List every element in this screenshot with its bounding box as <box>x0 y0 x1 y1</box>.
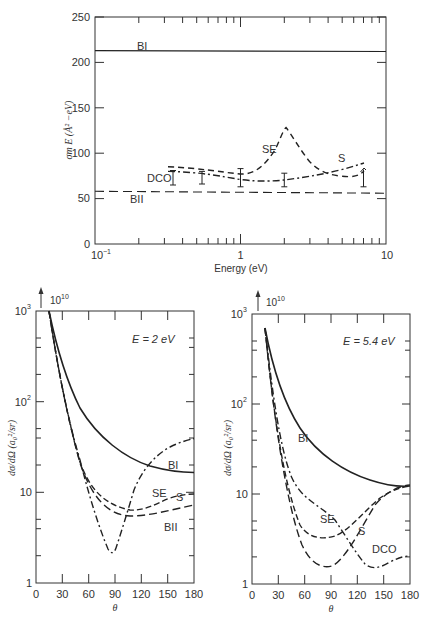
br-label-s: S <box>358 525 365 537</box>
br-x-tick-60: 60 <box>299 589 311 601</box>
br-x-tick-180: 180 <box>401 589 419 601</box>
br-y-tick-1000: 10 3 <box>231 306 247 320</box>
bl-curve-se <box>49 311 194 553</box>
bl-label-s: S <box>176 491 183 503</box>
svg-text:3: 3 <box>27 303 31 310</box>
figure: 250 200 150 100 50 0 10 −1 1 10 Energy (… <box>0 0 430 620</box>
bl-label-se: SE <box>152 487 167 499</box>
br-arrowhead-icon <box>256 290 261 297</box>
bl-x-tick-120: 120 <box>132 588 150 600</box>
br-y-tick-100: 10 2 <box>231 396 247 410</box>
br-label-bi: BI <box>298 432 308 444</box>
bl-x-tick-90: 90 <box>109 588 121 600</box>
top-x-tick-1: 1 <box>237 249 243 261</box>
br-y-tick-1: 1 <box>242 578 248 590</box>
br-scale-note-sup: 10 <box>277 295 285 302</box>
svg-text:10: 10 <box>231 398 243 410</box>
svg-text:3: 3 <box>243 306 247 313</box>
bl-scale-note-sup: 10 <box>61 293 69 300</box>
svg-text:10: 10 <box>231 308 243 320</box>
svg-text:2: 2 <box>27 394 31 401</box>
bl-x-tick-30: 30 <box>56 588 68 600</box>
top-label-s: S <box>338 152 345 164</box>
top-y-tick-200: 200 <box>72 56 90 68</box>
top-x-axis-label: Energy (eV) <box>214 263 267 274</box>
svg-text:−1: −1 <box>103 248 111 255</box>
bl-y-tick-10: 10 <box>20 486 32 498</box>
top-label-dco: DCO <box>147 172 172 184</box>
bl-y-tick-100: 10 2 <box>15 394 31 408</box>
br-x-axis-label: θ <box>329 603 334 614</box>
bottom-right-chart: 10 10 1 10 10 2 10 <box>222 290 419 614</box>
br-x-ticks <box>278 314 383 584</box>
bl-x-axis-label: θ <box>113 602 118 613</box>
br-curve-dco <box>265 328 410 567</box>
br-label-se: SE <box>320 513 335 525</box>
svg-text:2: 2 <box>243 396 247 403</box>
bl-scale-note: 10 <box>50 295 62 306</box>
br-x-tick-120: 120 <box>348 589 366 601</box>
br-y-axis-label: dσ/dΩ (a₀²/sr) <box>222 419 234 476</box>
svg-text:10: 10 <box>91 249 103 261</box>
top-y-axis-label: σm E (Å² −eV) <box>63 100 75 159</box>
br-x-tick-150: 150 <box>375 589 393 601</box>
top-x-tick-01: 10 −1 <box>91 248 111 261</box>
bl-label-bii: BII <box>164 521 177 533</box>
bl-x-tick-0: 0 <box>33 588 39 600</box>
bl-energy-label: E = 2 eV <box>132 333 176 345</box>
bl-x-tick-180: 180 <box>185 588 203 600</box>
top-y-tick-50: 50 <box>78 192 90 204</box>
top-y-tick-0: 0 <box>84 238 90 250</box>
bl-y-tick-1000: 10 3 <box>15 303 31 317</box>
top-y-tick-250: 250 <box>72 11 90 23</box>
br-energy-label: E = 5.4 eV <box>343 335 396 347</box>
top-x-tick-10: 10 <box>381 249 393 261</box>
br-label-dco: DCO <box>372 543 397 555</box>
br-x-tick-90: 90 <box>325 589 337 601</box>
top-chart: 250 200 150 100 50 0 10 −1 1 10 Energy (… <box>63 11 393 274</box>
br-curve-s <box>265 328 410 538</box>
br-x-tick-30: 30 <box>272 589 284 601</box>
br-x-tick-0: 0 <box>249 589 255 601</box>
bl-x-tick-60: 60 <box>83 588 95 600</box>
top-y-tick-100: 100 <box>72 147 90 159</box>
bl-label-bi: BI <box>168 459 178 471</box>
bl-x-tick-150: 150 <box>159 588 177 600</box>
bl-arrowhead-icon <box>39 287 44 294</box>
bl-y-tick-1: 1 <box>26 577 32 589</box>
top-y-tick-150: 150 <box>72 102 90 114</box>
br-scale-note: 10 <box>266 297 278 308</box>
top-label-se: SE <box>262 143 277 155</box>
bl-y-axis-label: dσ/dΩ (a₀²/sr) <box>6 419 18 476</box>
top-curve-s <box>168 163 364 181</box>
br-y-tick-10: 10 <box>236 488 248 500</box>
top-label-bii: BII <box>130 193 143 205</box>
br-curve-se <box>265 328 410 568</box>
top-label-bi: BI <box>137 40 147 52</box>
bottom-left-chart: 10 10 1 10 10 2 <box>6 287 203 613</box>
svg-text:10: 10 <box>15 396 27 408</box>
svg-text:10: 10 <box>15 305 27 317</box>
